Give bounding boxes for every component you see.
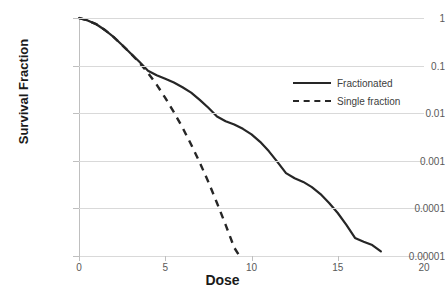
series-line-single-fraction	[79, 18, 239, 256]
plot-area	[79, 18, 424, 256]
y-tick-label: 0.001	[373, 155, 445, 166]
legend-item-fractionated: Fractionated	[293, 74, 433, 92]
y-tick-mark	[73, 113, 79, 114]
x-axis-title: Dose	[0, 272, 445, 288]
legend-label-fractionated: Fractionated	[337, 78, 393, 89]
x-tick-mark	[338, 256, 339, 261]
y-axis-title: Survival Fraction	[16, 17, 31, 167]
x-tick-mark	[79, 256, 80, 261]
chart-legend: Fractionated Single fraction	[293, 74, 433, 110]
y-tick-label: 0.1	[373, 60, 445, 71]
y-tick-label: 1	[373, 13, 445, 24]
legend-swatch-solid-icon	[293, 77, 331, 89]
x-tick-mark	[252, 256, 253, 261]
x-tick-mark	[165, 256, 166, 261]
curve-group	[79, 18, 424, 256]
y-tick-mark	[73, 161, 79, 162]
y-tick-mark	[73, 18, 79, 19]
x-tick-mark	[424, 256, 425, 261]
y-tick-mark	[73, 208, 79, 209]
y-tick-mark	[73, 66, 79, 67]
y-tick-label: 0.0001	[373, 203, 445, 214]
survival-fraction-chart: 10.10.010.0010.00010.00001 05101520 Surv…	[0, 0, 445, 298]
legend-swatch-dashed-icon	[293, 95, 331, 107]
legend-label-single-fraction: Single fraction	[337, 96, 400, 107]
y-tick-label: 0.00001	[373, 251, 445, 262]
legend-item-single-fraction: Single fraction	[293, 92, 433, 110]
series-line-fractionated	[79, 18, 381, 251]
